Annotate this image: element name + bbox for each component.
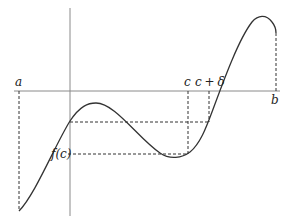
label-c-plus-delta: c + δ: [195, 76, 224, 88]
function-curve: [19, 16, 276, 211]
label-c: c: [184, 76, 191, 88]
label-b: b: [271, 94, 279, 106]
graph-canvas: [0, 0, 294, 224]
label-f-of-c: f(c): [51, 148, 72, 160]
function-graph-figure: a b c c + δ f(c): [0, 0, 294, 224]
label-a: a: [15, 76, 22, 88]
